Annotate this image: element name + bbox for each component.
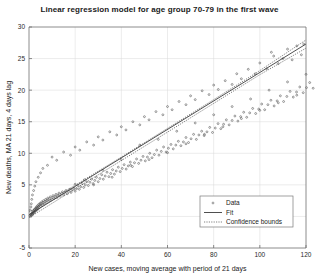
data-point bbox=[296, 91, 298, 93]
data-point bbox=[194, 122, 196, 124]
data-point bbox=[131, 166, 133, 168]
data-point bbox=[299, 86, 301, 88]
data-point bbox=[190, 138, 192, 140]
legend-label: Confidence bounds bbox=[226, 218, 283, 225]
x-tick-label: 20 bbox=[72, 251, 80, 258]
data-point bbox=[214, 127, 216, 129]
data-point bbox=[185, 137, 187, 139]
data-point bbox=[176, 130, 178, 132]
data-point bbox=[309, 82, 311, 84]
data-point bbox=[234, 115, 236, 117]
data-point bbox=[143, 116, 145, 118]
data-point bbox=[292, 96, 294, 98]
data-point bbox=[178, 101, 180, 103]
data-point bbox=[243, 111, 245, 113]
data-point bbox=[222, 126, 224, 128]
y-tick-label: 0 bbox=[21, 213, 25, 220]
data-point bbox=[163, 146, 165, 148]
data-point bbox=[104, 175, 106, 177]
data-point bbox=[148, 119, 150, 121]
data-point bbox=[127, 165, 129, 167]
data-point bbox=[270, 99, 272, 101]
data-point bbox=[289, 90, 291, 92]
data-point bbox=[261, 103, 263, 105]
data-point bbox=[113, 173, 115, 175]
data-point bbox=[162, 114, 164, 116]
y-tick-label: 10 bbox=[18, 150, 26, 157]
data-point bbox=[287, 81, 289, 83]
legend-label: Data bbox=[226, 199, 240, 206]
data-point bbox=[110, 173, 112, 175]
data-point bbox=[79, 149, 81, 151]
data-point bbox=[296, 94, 298, 96]
data-point bbox=[180, 145, 182, 147]
data-point bbox=[31, 198, 33, 200]
data-point bbox=[277, 102, 279, 104]
data-point bbox=[134, 162, 136, 164]
data-point bbox=[291, 59, 293, 61]
data-point bbox=[106, 171, 108, 173]
data-point bbox=[208, 94, 210, 96]
data-point bbox=[119, 171, 121, 173]
data-point bbox=[140, 159, 142, 161]
data-point bbox=[170, 144, 172, 146]
data-point bbox=[115, 170, 117, 172]
data-point bbox=[206, 131, 208, 133]
data-point bbox=[267, 104, 269, 106]
x-tick-label: 100 bbox=[254, 251, 265, 258]
data-point bbox=[30, 206, 32, 208]
x-tick-label: 80 bbox=[210, 251, 218, 258]
y-tick-label: 30 bbox=[18, 23, 26, 30]
data-point bbox=[240, 118, 242, 120]
data-point bbox=[144, 160, 146, 162]
data-point bbox=[101, 174, 103, 176]
data-point bbox=[94, 179, 96, 181]
legend-label: Fit bbox=[226, 209, 233, 216]
data-point bbox=[194, 99, 196, 101]
data-point bbox=[255, 113, 257, 115]
data-point bbox=[201, 130, 203, 132]
data-point bbox=[93, 144, 95, 146]
data-point bbox=[108, 176, 110, 178]
data-point bbox=[40, 172, 42, 174]
data-point bbox=[123, 164, 125, 166]
data-point bbox=[130, 164, 132, 166]
data-point-group bbox=[29, 43, 314, 217]
data-point bbox=[29, 209, 31, 211]
data-point bbox=[220, 128, 222, 130]
data-point bbox=[125, 168, 127, 170]
data-point bbox=[185, 143, 187, 145]
data-point bbox=[276, 100, 278, 102]
data-point bbox=[99, 178, 101, 180]
data-point bbox=[279, 95, 281, 97]
data-point bbox=[270, 51, 272, 53]
data-point bbox=[102, 178, 104, 180]
data-point bbox=[55, 193, 57, 195]
data-point bbox=[136, 158, 138, 160]
data-point bbox=[42, 167, 44, 169]
data-point bbox=[217, 123, 219, 125]
data-point bbox=[129, 161, 131, 163]
data-point bbox=[160, 150, 162, 152]
data-point bbox=[225, 119, 227, 121]
x-tick-label: 0 bbox=[27, 251, 31, 258]
data-point bbox=[240, 116, 242, 118]
data-point bbox=[34, 185, 36, 187]
data-point bbox=[109, 131, 111, 133]
data-point bbox=[283, 101, 285, 103]
data-point bbox=[156, 149, 158, 151]
data-point bbox=[125, 129, 127, 131]
data-point bbox=[112, 169, 114, 171]
data-point bbox=[231, 106, 233, 108]
data-point bbox=[78, 188, 80, 190]
data-point bbox=[273, 105, 275, 107]
x-tick-label: 120 bbox=[301, 251, 312, 258]
data-point bbox=[153, 154, 155, 156]
data-point bbox=[148, 159, 150, 161]
data-point bbox=[121, 167, 123, 169]
data-point bbox=[246, 116, 248, 118]
data-point bbox=[240, 78, 242, 80]
data-point bbox=[83, 186, 85, 188]
data-point bbox=[155, 111, 157, 113]
data-point bbox=[151, 157, 153, 159]
